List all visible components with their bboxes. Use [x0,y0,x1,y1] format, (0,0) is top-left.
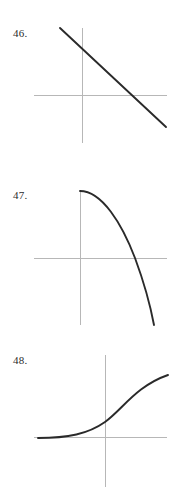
problem-47: 47. [0,170,187,340]
problem-number-47: 47. [13,190,27,201]
curve-46-line [60,28,166,127]
graph-47 [30,182,175,332]
problem-46: 46. [0,0,187,170]
problem-number-48: 48. [13,355,27,366]
problem-number-46: 46. [13,28,27,39]
problem-48: 48. [0,340,187,503]
worksheet-page: 46. 47. 48. [0,0,187,503]
curve-48-sigmoid [38,375,168,438]
graph-48 [30,348,175,498]
graph-46 [30,18,175,143]
